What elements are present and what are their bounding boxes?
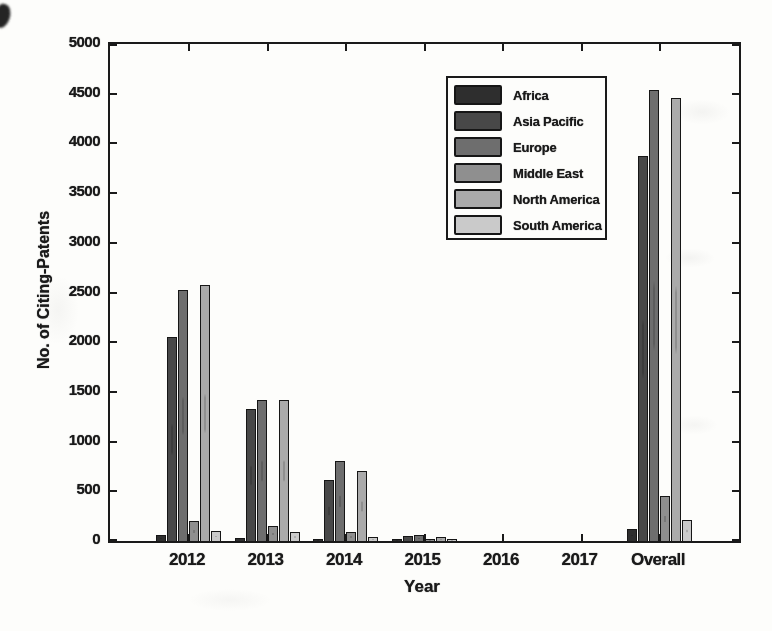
legend-row-europe: Europe [454, 134, 605, 160]
x-tick-top [188, 44, 190, 51]
y-tick-left [110, 490, 117, 492]
legend: AfricaAsia PacificEuropeMiddle EastNorth… [446, 76, 607, 240]
bar-europe-2013 [257, 400, 267, 541]
y-tick-right [732, 341, 739, 343]
x-tick-bottom [581, 534, 583, 541]
bar-asia-pacific-2012 [167, 337, 177, 541]
y-tick-right [732, 539, 739, 541]
bar-europe-2014 [335, 461, 345, 541]
bar-africa-2014 [313, 539, 323, 541]
bar-south-america-2012 [211, 531, 221, 541]
bar-north-america-2013 [279, 400, 289, 541]
legend-swatch-middle-east [454, 163, 502, 183]
y-tick-label: 1000 [28, 431, 100, 448]
bar-asia-pacific-2013 [246, 409, 256, 541]
y-tick-label: 4000 [28, 132, 100, 149]
legend-swatch-europe [454, 137, 502, 157]
x-tick-top [345, 44, 347, 51]
legend-swatch-south-america [454, 215, 502, 235]
bar-asia-pacific-2014 [324, 480, 334, 541]
legend-label-south-america: South America [513, 218, 602, 233]
y-tick-label: 4500 [28, 83, 100, 100]
bar-north-america-2012 [200, 285, 210, 541]
y-tick-right [732, 391, 739, 393]
x-tick-bottom [502, 534, 504, 541]
x-tick-top [581, 44, 583, 51]
legend-row-africa: Africa [454, 82, 605, 108]
bar-south-america-2014 [368, 537, 378, 541]
bar-asia-pacific-overall [638, 156, 648, 541]
y-tick-left [110, 44, 117, 46]
bar-north-america-overall [671, 98, 681, 541]
y-tick-right [732, 292, 739, 294]
bar-europe-overall [649, 90, 659, 541]
bar-africa-overall [627, 529, 637, 541]
legend-row-south-america: South America [454, 212, 605, 238]
y-tick-left [110, 93, 117, 95]
y-tick-right [732, 242, 739, 244]
bar-middle-east-2013 [268, 526, 278, 541]
bar-south-america-2013 [290, 532, 300, 541]
x-tick-top [267, 44, 269, 51]
y-tick-label: 5000 [28, 33, 100, 50]
x-tick-top [659, 44, 661, 51]
bar-europe-2015 [414, 535, 424, 541]
legend-row-north-america: North America [454, 186, 605, 212]
y-tick-right [732, 441, 739, 443]
legend-label-africa: Africa [513, 88, 549, 103]
legend-swatch-asia-pacific [454, 111, 502, 131]
y-tick-right [732, 93, 739, 95]
bar-africa-2013 [235, 538, 245, 541]
y-tick-label: 1500 [28, 381, 100, 398]
plot-area [108, 42, 741, 543]
y-tick-right [732, 490, 739, 492]
legend-row-asia-pacific: Asia Pacific [454, 108, 605, 134]
y-tick-left [110, 242, 117, 244]
y-tick-left [110, 142, 117, 144]
bar-north-america-2014 [357, 471, 367, 541]
bar-north-america-2015 [436, 537, 446, 541]
legend-label-north-america: North America [513, 192, 600, 207]
bar-middle-east-2015 [425, 539, 435, 541]
y-tick-left [110, 539, 117, 541]
legend-label-asia-pacific: Asia Pacific [513, 114, 584, 129]
y-tick-right [732, 192, 739, 194]
x-tick-top [502, 44, 504, 51]
bar-middle-east-2014 [346, 532, 356, 541]
x-tick-top [424, 44, 426, 51]
y-axis-title: No. of Citing-Patents [35, 211, 53, 369]
y-tick-left [110, 292, 117, 294]
y-tick-label: 500 [28, 480, 100, 497]
scan-smudge [0, 2, 13, 29]
y-tick-left [110, 391, 117, 393]
y-tick-right [732, 44, 739, 46]
y-tick-label: 0 [28, 530, 100, 547]
bar-europe-2012 [178, 290, 188, 541]
bar-africa-2015 [392, 539, 402, 541]
scanned-bar-chart-figure: 0500100015002000250030003500400045005000… [0, 0, 772, 631]
legend-label-middle-east: Middle East [513, 166, 583, 181]
x-axis-title: Year [332, 577, 512, 597]
legend-label-europe: Europe [513, 140, 557, 155]
y-tick-right [732, 142, 739, 144]
y-tick-left [110, 341, 117, 343]
bar-middle-east-overall [660, 496, 670, 541]
legend-swatch-africa [454, 85, 502, 105]
x-tick-label-overall: Overall [612, 550, 704, 570]
bar-middle-east-2012 [189, 521, 199, 541]
legend-swatch-north-america [454, 189, 502, 209]
bar-asia-pacific-2015 [403, 536, 413, 541]
bar-south-america-overall [682, 520, 692, 541]
y-tick-label: 3500 [28, 182, 100, 199]
legend-row-middle-east: Middle East [454, 160, 605, 186]
y-tick-left [110, 441, 117, 443]
bar-africa-2012 [156, 535, 166, 541]
bar-south-america-2015 [447, 539, 457, 541]
y-tick-left [110, 192, 117, 194]
